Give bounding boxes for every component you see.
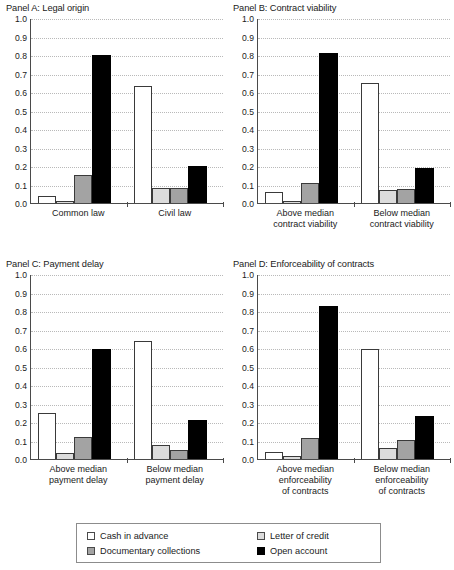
plot-canvas [257, 275, 450, 460]
y-axis: 1.00.90.80.70.60.50.40.30.20.10.0 [227, 19, 257, 204]
y-axis: 1.00.90.80.70.60.50.40.30.20.10.0 [0, 275, 30, 460]
bar-group [361, 275, 434, 459]
y-axis-tick-label: 0.8 [15, 307, 27, 317]
bar [265, 192, 283, 203]
y-axis: 1.00.90.80.70.60.50.40.30.20.10.0 [227, 275, 257, 460]
bar [301, 183, 319, 203]
y-axis-tick-label: 0.4 [15, 381, 27, 391]
x-axis-label-line: of contracts [354, 486, 451, 497]
y-axis-tick-label: 0.2 [15, 162, 27, 172]
bar [361, 349, 379, 459]
x-axis-center-tick [354, 202, 355, 207]
bar-group [38, 275, 111, 459]
panel-3: Panel C: Payment delay1.00.90.80.70.60.5… [0, 256, 227, 516]
y-axis-tick-label: 0.0 [15, 199, 27, 209]
x-axis-end-tick [223, 458, 224, 463]
y-axis-tick-label: 0.7 [242, 326, 254, 336]
x-axis-category-label: Civil law [127, 208, 224, 219]
y-axis-tick-label: 0.0 [242, 199, 254, 209]
legend-label: Documentary collections [100, 546, 200, 556]
y-axis-tick-label: 0.5 [242, 363, 254, 373]
legend-item: Open account [257, 546, 392, 556]
bar [92, 349, 110, 459]
x-axis-labels: Above mediancontract viabilityBelow medi… [257, 208, 450, 230]
x-axis-end-tick [450, 458, 451, 463]
x-axis-label-line: Common law [30, 208, 127, 219]
bar [170, 188, 188, 203]
y-axis-tick-label: 0.4 [15, 125, 27, 135]
x-axis-center-tick [127, 202, 128, 207]
bar [188, 420, 206, 459]
x-axis-category-label: Above medianenforceabilityof contracts [257, 464, 354, 498]
y-axis-tick-label: 0.5 [15, 363, 27, 373]
y-axis-tick-label: 0.3 [15, 144, 27, 154]
bar [134, 86, 152, 203]
bar-groups [31, 275, 223, 459]
x-axis-end-tick [223, 202, 224, 207]
bar [38, 413, 56, 459]
bar [319, 53, 337, 203]
panel-title: Panel A: Legal origin [6, 3, 89, 13]
figure-multi-panel-bar-chart: Panel A: Legal origin1.00.90.80.70.60.50… [0, 0, 454, 570]
legend-item: Documentary collections [87, 546, 257, 556]
bar [134, 341, 152, 459]
y-axis-tick-label: 0.6 [15, 344, 27, 354]
bar [38, 196, 56, 203]
y-axis-tick-label: 0.9 [242, 33, 254, 43]
y-axis-tick-label: 0.3 [242, 144, 254, 154]
y-axis-tick-label: 0.7 [15, 70, 27, 80]
y-axis-tick-label: 0.8 [242, 51, 254, 61]
y-axis-tick-label: 0.5 [15, 107, 27, 117]
panel-title: Panel C: Payment delay [6, 259, 104, 269]
bar [56, 453, 74, 459]
bar [74, 175, 92, 203]
bar [56, 201, 74, 203]
bar [301, 438, 319, 459]
y-axis-tick-label: 0.2 [242, 418, 254, 428]
y-axis-tick-label: 0.6 [242, 88, 254, 98]
y-axis-tick-label: 0.3 [15, 400, 27, 410]
bar [397, 189, 415, 203]
y-axis-tick-label: 0.9 [15, 289, 27, 299]
y-axis-tick-label: 0.7 [15, 326, 27, 336]
legend-swatch-icon [87, 547, 95, 555]
bar-groups [31, 19, 223, 203]
bar-group [134, 275, 207, 459]
x-axis-category-label: Below medianenforceabilityof contracts [354, 464, 451, 498]
plot-canvas [257, 19, 450, 204]
x-axis-category-label: Above medianpayment delay [30, 464, 127, 486]
y-axis-tick-label: 0.2 [15, 418, 27, 428]
y-axis-tick-label: 0.2 [242, 162, 254, 172]
y-axis-tick-label: 0.0 [15, 455, 27, 465]
bar [379, 448, 397, 459]
bar-groups [258, 19, 450, 203]
panel-1: Panel A: Legal origin1.00.90.80.70.60.50… [0, 0, 227, 256]
x-axis-labels: Above medianenforceabilityof contractsBe… [257, 464, 450, 498]
y-axis-tick-label: 0.7 [242, 70, 254, 80]
bar-groups [258, 275, 450, 459]
x-axis-labels: Common lawCivil law [30, 208, 223, 219]
legend-grid: Cash in advanceLetter of creditDocumenta… [87, 528, 380, 558]
y-axis-tick-label: 0.0 [242, 455, 254, 465]
bar [283, 456, 301, 459]
y-axis-tick-label: 0.4 [242, 125, 254, 135]
x-axis-label-line: contract viability [257, 219, 354, 230]
x-axis-label-line: Civil law [127, 208, 224, 219]
bar [415, 416, 433, 459]
bar [415, 168, 433, 203]
legend-item: Cash in advance [87, 531, 257, 541]
y-axis-tick-label: 0.1 [242, 437, 254, 447]
bar [170, 450, 188, 459]
x-axis-label-line: Below median [354, 208, 451, 219]
legend-swatch-icon [257, 532, 265, 540]
x-axis-labels: Above medianpayment delayBelow medianpay… [30, 464, 223, 486]
plot-canvas [30, 19, 223, 204]
x-axis-label-line: enforceability [354, 475, 451, 486]
bar [265, 452, 283, 459]
bar [152, 188, 170, 203]
panel-title: Panel B: Contract viability [233, 3, 336, 13]
panel-2: Panel B: Contract viability1.00.90.80.70… [227, 0, 454, 256]
bar [379, 190, 397, 203]
bar [283, 201, 301, 203]
legend-label: Open account [270, 546, 327, 556]
